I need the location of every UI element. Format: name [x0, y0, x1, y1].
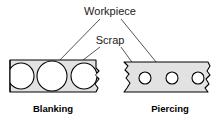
blanking-edge-circle-left — [8, 63, 34, 89]
caption-piercing: Piercing — [151, 103, 189, 114]
blanking-edge-circle-right — [71, 63, 97, 89]
piercing-hole-2 — [166, 72, 178, 84]
diagram-canvas: Workpiece Scrap — [0, 0, 220, 118]
label-scrap: Scrap — [96, 34, 125, 46]
caption-blanking: Blanking — [33, 103, 73, 114]
piercing-hole-1 — [139, 72, 151, 84]
label-workpiece: Workpiece — [84, 5, 136, 17]
blanking-center-circle — [37, 61, 67, 91]
blanking-piercing-diagram: Workpiece Scrap — [0, 0, 220, 118]
leader-workpiece-to-piercing — [121, 19, 161, 68]
piercing-hole-3 — [192, 72, 204, 84]
piercing-strip — [124, 62, 210, 92]
blanking-strip — [8, 60, 99, 92]
